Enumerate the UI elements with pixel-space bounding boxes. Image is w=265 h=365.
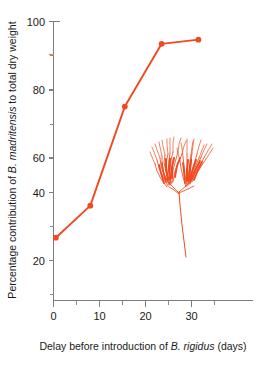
y-tick-label-20: 20 [33,255,45,267]
data-point [53,235,59,241]
y-tick-label-100: 100 [27,16,45,28]
y-minor-ticks [50,56,54,295]
y-tick-label-80: 80 [33,84,45,96]
x-tick-label-20: 20 [139,310,151,322]
axis-group [54,22,253,301]
data-series-group [53,37,201,241]
data-point [159,41,165,47]
data-point [196,37,202,43]
x-axis-title: Delay before introduction of B. rigidus … [39,340,246,352]
chart-page: 100 80 60 40 20 0 10 20 30 [0,0,265,365]
line-chart: 100 80 60 40 20 0 10 20 30 [0,0,265,365]
series-line [56,40,199,238]
grass-inflorescence-icon [150,137,213,257]
y-tick-label-40: 40 [33,187,45,199]
y-axis-title: Percentage contribution of B. madritensi… [6,21,18,298]
data-point [122,104,128,110]
y-tick-label-60: 60 [33,152,45,164]
y-tick-labels: 100 80 60 40 20 [27,16,45,267]
series-markers [53,37,201,241]
x-tick-label-0: 0 [50,310,56,322]
x-tick-labels: 0 10 20 30 [50,310,197,322]
data-point [87,203,93,209]
x-tick-label-10: 10 [93,310,105,322]
y-major-ticks [49,22,54,261]
x-tick-label-30: 30 [185,310,197,322]
